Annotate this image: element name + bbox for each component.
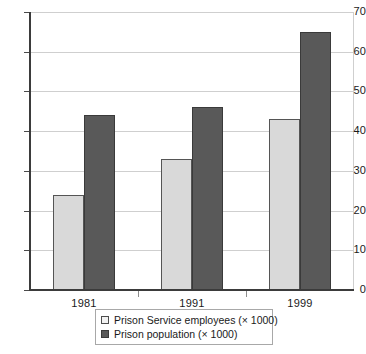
x-axis-tick xyxy=(246,291,247,297)
dark-square-swatch-icon xyxy=(101,330,109,338)
bar xyxy=(161,159,192,290)
y-axis-tick-label: 30 xyxy=(344,165,366,176)
bar-chart: 010203040506070 198119911999 Prison Serv… xyxy=(0,0,366,354)
y-axis-tick xyxy=(24,211,29,212)
legend-label: Prison Service employees (× 1000) xyxy=(114,314,278,326)
y-axis-tick-label: 10 xyxy=(344,244,366,255)
y-axis-tick xyxy=(24,290,29,291)
bar xyxy=(84,115,115,290)
bar xyxy=(53,195,84,290)
plot-area xyxy=(30,12,354,290)
y-axis-tick-label: 0 xyxy=(344,284,366,295)
bar xyxy=(192,107,223,290)
gridline xyxy=(30,12,354,13)
light-square-swatch-icon xyxy=(101,316,109,324)
y-axis-tick-label: 60 xyxy=(344,46,366,57)
bar xyxy=(269,119,300,290)
legend-item-prison-service-employees: Prison Service employees (× 1000) xyxy=(101,313,266,327)
y-axis-tick xyxy=(24,12,29,13)
x-axis-tick xyxy=(138,291,139,297)
legend-label: Prison population (× 1000) xyxy=(114,328,237,340)
y-axis-tick xyxy=(24,91,29,92)
y-axis-tick-label: 50 xyxy=(344,85,366,96)
chart-legend: Prison Service employees (× 1000) Prison… xyxy=(95,309,273,345)
y-axis-tick xyxy=(24,52,29,53)
y-axis-tick-label: 20 xyxy=(344,205,366,216)
x-axis-tick-label: 1999 xyxy=(270,297,330,310)
y-axis-tick xyxy=(24,250,29,251)
y-axis-tick xyxy=(24,171,29,172)
legend-item-prison-population: Prison population (× 1000) xyxy=(101,327,266,341)
y-axis-tick xyxy=(24,131,29,132)
y-axis-tick-label: 40 xyxy=(344,125,366,136)
x-axis-line xyxy=(29,289,354,291)
y-axis-tick-label: 70 xyxy=(344,6,366,17)
y-axis-line xyxy=(29,12,31,291)
bar xyxy=(300,32,331,290)
